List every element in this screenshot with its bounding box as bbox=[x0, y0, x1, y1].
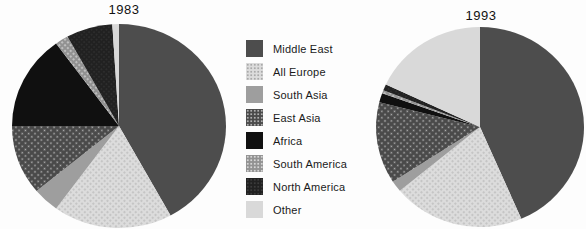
legend-item-east-asia: East Asia bbox=[246, 109, 347, 126]
legend-item-south-asia: South Asia bbox=[246, 86, 347, 103]
legend-swatch-south-asia bbox=[246, 86, 263, 103]
legend-label-middle-east: Middle East bbox=[273, 43, 333, 55]
figure-canvas: 1983 1993 Middle East All Europe South A… bbox=[0, 0, 586, 229]
legend-swatch-east-asia bbox=[246, 109, 263, 126]
legend-label-north-america: North America bbox=[273, 181, 345, 193]
legend-label-africa: Africa bbox=[273, 135, 302, 147]
legend-item-all-europe: All Europe bbox=[246, 63, 347, 80]
legend-swatch-south-america bbox=[246, 155, 263, 172]
pie-1983 bbox=[12, 24, 226, 228]
legend: Middle East All Europe South Asia East A… bbox=[246, 40, 347, 218]
legend-item-africa: Africa bbox=[246, 132, 347, 149]
legend-label-south-asia: South Asia bbox=[273, 89, 328, 101]
legend-item-north-america: North America bbox=[246, 178, 347, 195]
legend-swatch-all-europe bbox=[246, 63, 263, 80]
legend-swatch-africa bbox=[246, 132, 263, 149]
legend-label-all-europe: All Europe bbox=[273, 66, 326, 78]
legend-swatch-north-america bbox=[246, 178, 263, 195]
legend-swatch-middle-east bbox=[246, 40, 263, 57]
legend-label-south-america: South America bbox=[273, 158, 347, 170]
legend-swatch-other bbox=[246, 201, 263, 218]
legend-label-east-asia: East Asia bbox=[273, 112, 321, 124]
legend-item-south-america: South America bbox=[246, 155, 347, 172]
legend-item-middle-east: Middle East bbox=[246, 40, 347, 57]
legend-label-other: Other bbox=[273, 204, 302, 216]
pie-1993 bbox=[376, 27, 584, 227]
legend-item-other: Other bbox=[246, 201, 347, 218]
